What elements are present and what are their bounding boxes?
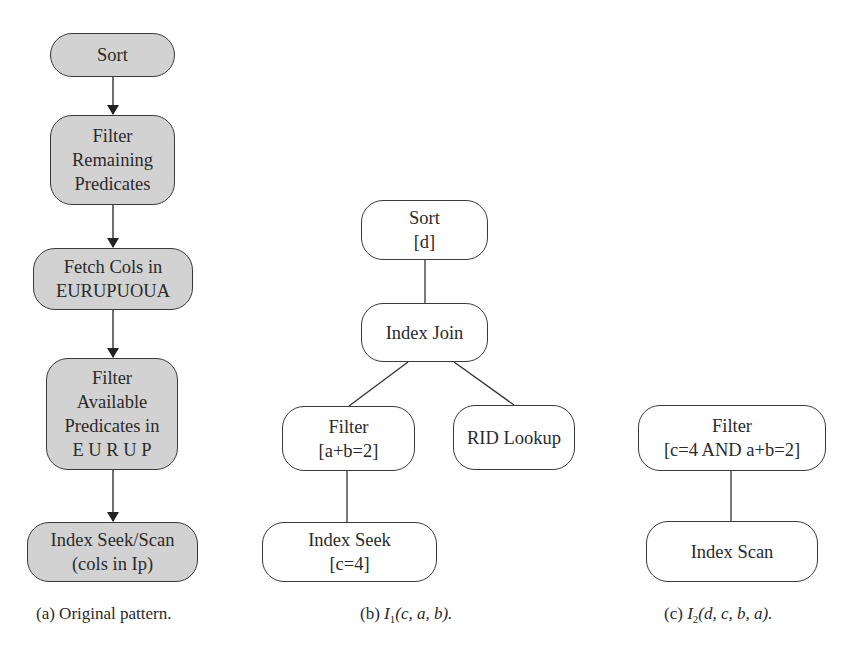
node-label: [a+b=2] [319,439,379,463]
node-filter-ab: Filter [a+b=2] [282,406,415,471]
node-label: [c=4 AND a+b=2] [664,438,800,462]
caption-a: (a) Original pattern. [36,604,171,624]
caption-args: (c, a, b). [395,604,452,623]
node-sort: Sort [50,33,175,77]
node-label: Fetch Cols in [64,255,163,279]
caption-args: (d, c, b, a). [698,604,772,623]
node-label: Filter [328,415,368,439]
node-index-join: Index Join [361,303,488,362]
node-label: Index Seek [308,528,391,552]
node-sort-d: Sort [d] [361,200,488,260]
node-filter-available-predicates: Filter Available Predicates in E U R U P [46,358,178,470]
node-rid-lookup: RID Lookup [453,405,575,470]
node-label: (cols in Ip) [72,552,153,576]
node-label: EURUPUOUA [56,279,170,303]
node-label: Filter [712,414,752,438]
node-index-scan: Index Scan [646,521,818,582]
caption-prefix: (c) [664,604,687,623]
caption-prefix: (b) [360,604,384,623]
node-label: Filter [92,124,132,148]
node-label: Index Scan [691,540,774,564]
node-index-seek: Index Seek [c=4] [262,522,437,582]
node-index-seek-scan: Index Seek/Scan (cols in Ip) [27,522,198,582]
node-label: Index Join [386,321,464,345]
node-label: [d] [414,230,436,254]
caption-b: (b) I1(c, a, b). [360,604,452,625]
node-label: Sort [97,43,128,67]
node-label: Filter [92,366,132,390]
node-filter-remaining-predicates: Filter Remaining Predicates [50,115,175,205]
node-filter-c-ab: Filter [c=4 AND a+b=2] [638,405,826,471]
node-label: Sort [409,206,440,230]
node-label: Available [77,390,148,414]
node-label: Index Seek/Scan [51,528,175,552]
node-fetch-cols: Fetch Cols in EURUPUOUA [33,248,193,310]
node-label: Remaining [72,148,153,172]
node-label: Predicates [74,172,150,196]
connectors-b [347,260,514,522]
caption-c: (c) I2(d, c, b, a). [664,604,772,625]
node-label: RID Lookup [467,426,561,450]
node-label: [c=4] [329,552,369,576]
node-label: E U R U P [72,438,151,462]
node-label: Predicates in [64,414,159,438]
